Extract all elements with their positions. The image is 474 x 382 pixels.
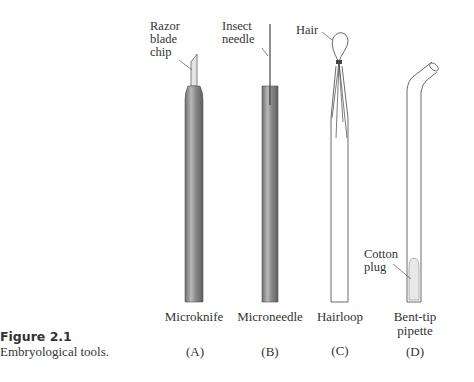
panel-letter-b: (B) (255, 344, 285, 360)
panel-letter-d: (D) (400, 344, 430, 360)
tool-name-bent-tip-pipette: Bent-tip pipette (390, 310, 440, 338)
bent-tip-pipette-drawing (393, 61, 440, 302)
annotation-line: needle (222, 33, 255, 46)
name-line: pipette (390, 324, 440, 338)
figure-caption-text: Embryological tools. (0, 344, 109, 359)
panel-letter-c: (C) (325, 343, 355, 359)
hairloop-drawing (322, 32, 348, 302)
name-line: Bent-tip (390, 310, 440, 324)
annotation-line: Hair (296, 24, 318, 37)
annotation-line: chip (150, 46, 180, 59)
tool-name-microneedle: Microneedle (236, 310, 304, 324)
annotation-insect-needle: Insect needle (222, 20, 255, 46)
microneedle-drawing (262, 24, 278, 302)
annotation-line: plug (364, 261, 398, 274)
annotation-cotton-plug: Cotton plug (364, 248, 398, 274)
panel-letter-a: (A) (180, 344, 210, 360)
figure-number: Figure 2.1 (0, 330, 109, 344)
tool-name-microknife: Microknife (162, 310, 226, 324)
annotation-razor-blade-chip: Razor blade chip (150, 20, 180, 59)
microknife-drawing (179, 54, 203, 302)
annotation-hair: Hair (296, 24, 318, 37)
tool-name-hairloop: Hairloop (312, 310, 368, 324)
figure-caption: Figure 2.1 Embryological tools. (0, 330, 109, 359)
